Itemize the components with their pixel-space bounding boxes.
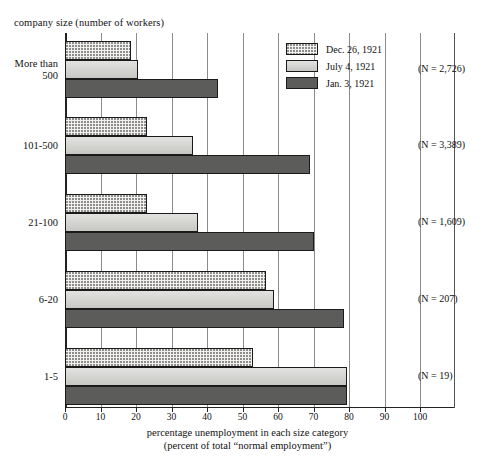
x-tick-label-80: 80 — [344, 412, 354, 422]
legend-label-2: Jan. 3, 1921 — [326, 78, 374, 89]
x-tick-label-100: 100 — [413, 412, 427, 422]
gridline-60 — [278, 33, 279, 407]
x-axis-title: percentage unemployment in each size cat… — [0, 426, 495, 452]
legend-item-2: Jan. 3, 1921 — [286, 75, 382, 91]
bar — [65, 367, 347, 386]
bar — [65, 232, 314, 251]
sample-size-label-1: (N = 3,389) — [418, 139, 465, 150]
x-tick-label-0: 0 — [63, 412, 68, 422]
legend-item-1: July 4, 1921 — [286, 58, 382, 74]
sample-size-label-2: (N = 1,609) — [418, 216, 465, 227]
x-tick-label-30: 30 — [167, 412, 177, 422]
bar — [65, 290, 274, 309]
legend-swatch-1 — [286, 60, 318, 72]
x-axis-line — [65, 407, 455, 408]
legend-swatch-2 — [286, 77, 318, 89]
y-category-label-3: 6-20 — [0, 294, 58, 306]
y-category-label-line: 1-5 — [0, 371, 58, 383]
y-axis-title: company size (number of workers) — [14, 17, 164, 28]
legend-swatch-0 — [286, 43, 318, 55]
y-category-label-line: 101-500 — [0, 140, 58, 152]
bar — [65, 213, 198, 232]
x-tick-label-60: 60 — [273, 412, 283, 422]
gridline-90 — [385, 33, 386, 407]
bar — [65, 194, 147, 213]
sample-size-label-0: (N = 2,726) — [418, 63, 465, 74]
y-category-label-line: 500 — [0, 70, 58, 82]
bar — [65, 309, 344, 328]
bar — [65, 271, 266, 290]
legend: Dec. 26, 1921July 4, 1921Jan. 3, 1921 — [286, 41, 382, 92]
x-tick-label-40: 40 — [202, 412, 212, 422]
bar — [65, 79, 218, 98]
y-category-label-2: 21-100 — [0, 217, 58, 229]
bar — [65, 41, 131, 60]
y-category-label-4: 1-5 — [0, 371, 58, 383]
y-category-label-1: 101-500 — [0, 140, 58, 152]
legend-item-0: Dec. 26, 1921 — [286, 41, 382, 57]
bar — [65, 386, 347, 405]
x-tick-label-50: 50 — [238, 412, 248, 422]
x-axis-title-line2: (percent of total “normal employment”) — [0, 439, 495, 452]
unemployment-by-company-size-chart: company size (number of workers) 0102030… — [0, 0, 495, 460]
y-category-label-line: More than — [0, 58, 58, 70]
bar — [65, 136, 193, 155]
y-category-label-0: More than500 — [0, 58, 58, 82]
x-tick-label-20: 20 — [131, 412, 141, 422]
x-tick-label-90: 90 — [380, 412, 390, 422]
bar — [65, 60, 138, 79]
y-category-label-line: 6-20 — [0, 294, 58, 306]
x-tick-label-10: 10 — [96, 412, 106, 422]
sample-size-label-4: (N = 19) — [418, 370, 453, 381]
legend-label-1: July 4, 1921 — [326, 61, 375, 72]
legend-label-0: Dec. 26, 1921 — [326, 44, 382, 55]
x-axis-title-line1: percentage unemployment in each size cat… — [0, 426, 495, 439]
bar — [65, 155, 310, 174]
x-tick-label-70: 70 — [309, 412, 319, 422]
sample-size-label-3: (N = 207) — [418, 293, 458, 304]
y-category-label-line: 21-100 — [0, 217, 58, 229]
bar — [65, 348, 253, 367]
bar — [65, 117, 147, 136]
